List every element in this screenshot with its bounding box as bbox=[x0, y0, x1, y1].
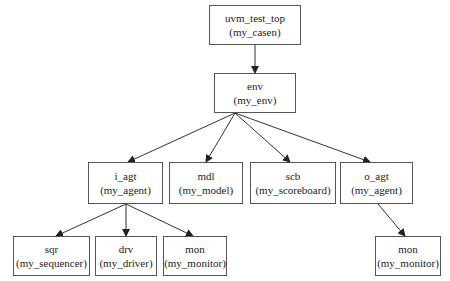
node-mon-i: mon (my_monitor) bbox=[163, 236, 227, 276]
node-name: mdl bbox=[170, 169, 242, 183]
node-type: (my_env) bbox=[215, 93, 295, 107]
node-type: (my_agent) bbox=[89, 183, 162, 197]
node-o-agt: o_agt (my_agent) bbox=[340, 162, 413, 204]
node-name: mon bbox=[376, 242, 440, 256]
edge-i_agt-mon bbox=[126, 204, 193, 236]
edge-i_agt-sqr bbox=[56, 204, 126, 236]
node-mon-o: mon (my_monitor) bbox=[375, 236, 441, 276]
node-type: (my_monitor) bbox=[164, 256, 226, 270]
node-type: (my_model) bbox=[170, 183, 242, 197]
node-type: (my_agent) bbox=[341, 183, 412, 197]
node-type: (my_scoreboard) bbox=[251, 183, 335, 197]
node-uvm-test-top: uvm_test_top (my_casen) bbox=[209, 5, 301, 45]
node-type: (my_sequencer) bbox=[14, 256, 89, 270]
edge-env-o_agt bbox=[235, 113, 370, 162]
node-name: i_agt bbox=[89, 169, 162, 183]
node-scb: scb (my_scoreboard) bbox=[250, 162, 336, 204]
node-name: drv bbox=[96, 242, 156, 256]
node-drv: drv (my_driver) bbox=[95, 236, 157, 276]
node-mdl: mdl (my_model) bbox=[169, 162, 243, 204]
node-name: scb bbox=[251, 169, 335, 183]
node-name: env bbox=[215, 79, 295, 93]
node-sqr: sqr (my_sequencer) bbox=[13, 236, 90, 276]
node-name: o_agt bbox=[341, 169, 412, 183]
diagram: uvm_test_top (my_casen) env (my_env) i_a… bbox=[0, 0, 450, 281]
edge-env-scb bbox=[235, 113, 290, 162]
node-name: mon bbox=[164, 242, 226, 256]
node-name: uvm_test_top bbox=[210, 11, 300, 25]
node-type: (my_driver) bbox=[96, 256, 156, 270]
node-type: (my_monitor) bbox=[376, 256, 440, 270]
node-name: sqr bbox=[14, 242, 89, 256]
edge-o_agt-mon bbox=[378, 204, 405, 236]
edge-env-mdl bbox=[206, 113, 235, 162]
node-env: env (my_env) bbox=[214, 73, 296, 113]
node-type: (my_casen) bbox=[210, 25, 300, 39]
edge-env-i_agt bbox=[128, 113, 235, 162]
node-i-agt: i_agt (my_agent) bbox=[88, 162, 163, 204]
